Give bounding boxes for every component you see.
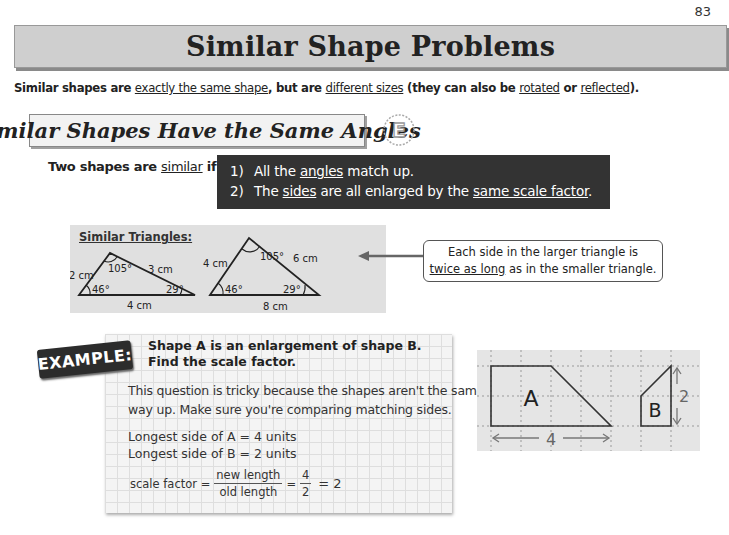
large-top-angle-label: 105° bbox=[260, 251, 284, 262]
small-right-side-label: 3 cm bbox=[148, 264, 173, 275]
small-base-label: 4 cm bbox=[127, 300, 152, 311]
rule-number: 2) bbox=[230, 181, 254, 201]
intro-text-part: or bbox=[560, 80, 581, 95]
question-line: Find the scale factor. bbox=[148, 354, 422, 370]
rule-number: 1) bbox=[230, 161, 254, 181]
rule-text: match up. bbox=[343, 163, 414, 179]
section-heading: Similar Shapes Have the Same Angles bbox=[29, 114, 365, 147]
intro-text-part: , but are bbox=[268, 80, 326, 95]
large-left-side-label: 4 cm bbox=[203, 258, 228, 269]
shape-b-dimension: 2 bbox=[679, 387, 689, 406]
similar-condition-lead: Two shapes are similar if: bbox=[48, 159, 221, 174]
grade-e-badge-icon: E bbox=[382, 113, 416, 147]
shape-a-dimension: 4 bbox=[546, 430, 556, 449]
intro-text-part: ). bbox=[630, 80, 639, 95]
note-line: way up. Make sure you're comparing match… bbox=[128, 400, 484, 419]
small-top-angle-label: 105° bbox=[108, 263, 132, 274]
small-left-side-label: 2 cm bbox=[70, 270, 94, 281]
rule-text: All the bbox=[254, 163, 300, 179]
shape-a-label: A bbox=[523, 386, 538, 411]
formula-result: = 2 bbox=[318, 476, 341, 491]
formula-fraction-values: 4 2 bbox=[300, 468, 311, 499]
intro-text-part: Similar shapes are bbox=[14, 80, 135, 95]
rule-text: are all enlarged by the bbox=[316, 183, 473, 199]
scale-callout: Each side in the larger triangle is twic… bbox=[423, 240, 663, 282]
example-step-2: Longest side of B = 2 units bbox=[128, 446, 297, 461]
similar-triangles-diagram: 2 cm 3 cm 4 cm 105° 46° 29° 4 cm 6 cm 8 … bbox=[70, 225, 386, 313]
shapes-grid-diagram: A B 4 2 bbox=[477, 350, 700, 451]
page-number: 83 bbox=[694, 4, 711, 19]
page-title: Similar Shape Problems bbox=[186, 31, 555, 62]
fraction-numerator: new length bbox=[214, 468, 282, 484]
rule-text: The bbox=[254, 183, 283, 199]
small-left-angle-label: 46° bbox=[92, 284, 110, 295]
intro-text: Similar shapes are exactly the same shap… bbox=[14, 80, 639, 95]
callout-line: twice as long as in the smaller triangle… bbox=[424, 261, 662, 278]
fraction-denominator: 2 bbox=[300, 484, 311, 499]
fraction-denominator: old length bbox=[217, 484, 279, 499]
large-left-angle-label: 46° bbox=[225, 284, 243, 295]
rule-text: . bbox=[588, 183, 592, 199]
similar-triangles-panel: Similar Triangles: 2 cm 3 cm 4 cm 105° 4… bbox=[70, 225, 386, 313]
example-step-1: Longest side of A = 4 units bbox=[128, 429, 297, 444]
shape-b-label: B bbox=[648, 399, 661, 421]
small-right-angle-label: 29° bbox=[166, 284, 184, 295]
similarity-rules-box: 1)All the angles match up. 2)The sides a… bbox=[217, 155, 610, 209]
example-question: Shape A is an enlargement of shape B. Fi… bbox=[148, 338, 422, 370]
intro-emphasis: different sizes bbox=[326, 80, 404, 95]
lead-text: Two shapes are bbox=[48, 159, 161, 174]
formula-equals: = bbox=[286, 477, 296, 491]
question-line: Shape A is an enlargement of shape B. bbox=[148, 338, 422, 354]
formula-fraction: new length old length bbox=[214, 468, 282, 499]
callout-line: Each side in the larger triangle is bbox=[424, 244, 662, 261]
large-right-side-label: 6 cm bbox=[293, 253, 318, 264]
scale-factor-formula: scale factor = new length old length = 4… bbox=[130, 468, 342, 499]
example-note: This question is tricky because the shap… bbox=[128, 381, 484, 419]
callout-text: as in the smaller triangle. bbox=[505, 262, 656, 276]
rule-emphasis: same scale factor bbox=[473, 183, 588, 199]
shapes-a-b-diagram: A B 4 2 bbox=[477, 350, 700, 451]
section-heading-text: Similar Shapes Have the Same Angles bbox=[0, 118, 421, 143]
large-right-angle-label: 29° bbox=[283, 284, 301, 295]
large-base-label: 8 cm bbox=[263, 301, 288, 312]
rule-emphasis: angles bbox=[300, 163, 343, 179]
formula-lhs: scale factor = bbox=[130, 477, 210, 491]
title-bar: Similar Shape Problems bbox=[14, 25, 727, 68]
rule-item: 2)The sides are all enlarged by the same… bbox=[230, 181, 610, 201]
callout-arrow-icon bbox=[358, 249, 426, 263]
rule-item: 1)All the angles match up. bbox=[230, 161, 610, 181]
intro-text-part: (they can also be bbox=[403, 80, 519, 95]
intro-emphasis: reflected bbox=[580, 80, 629, 95]
lead-emphasis: similar bbox=[161, 159, 202, 174]
rule-emphasis: sides bbox=[283, 183, 317, 199]
note-line: This question is tricky because the shap… bbox=[128, 381, 484, 400]
svg-text:E: E bbox=[392, 118, 406, 142]
intro-emphasis: rotated bbox=[519, 80, 560, 95]
callout-emphasis: twice as long bbox=[430, 262, 506, 276]
fraction-numerator: 4 bbox=[300, 468, 311, 484]
intro-emphasis: exactly the same shape bbox=[135, 80, 268, 95]
